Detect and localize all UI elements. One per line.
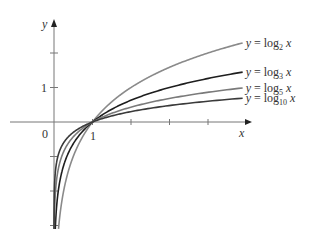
curve-label-log10: y = log10 x [245, 91, 296, 107]
curve-label-log2: y = log2 x [245, 36, 292, 52]
x-axis-label: x [238, 126, 245, 140]
x-axis-arrow-icon [245, 119, 252, 125]
log-graph: y x 0 1 1 y = log2 xy = log3 xy = log5 x… [0, 0, 319, 234]
curve-log10 [54, 98, 243, 229]
curve-log2 [58, 43, 242, 229]
ticks [50, 53, 208, 226]
curve-labels: y = log2 xy = log3 xy = log5 xy = log10 … [245, 36, 296, 107]
x-tick-label-1: 1 [90, 129, 96, 143]
origin-label: 0 [42, 127, 48, 141]
y-tick-label-1: 1 [41, 81, 47, 95]
curve-log3 [55, 72, 242, 229]
y-axis-label: y [41, 17, 48, 31]
plot-area: y x 0 1 1 y = log2 xy = log3 xy = log5 x… [0, 0, 319, 234]
curves [54, 43, 243, 229]
curve-label-log3: y = log3 x [245, 65, 292, 81]
y-axis-arrow-icon [51, 19, 57, 27]
